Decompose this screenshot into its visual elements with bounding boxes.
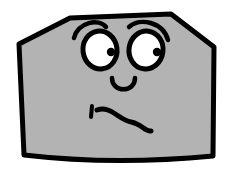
cartoon-rock-character bbox=[0, 0, 238, 172]
illustration-canvas bbox=[0, 0, 238, 172]
eye-left-pupil-icon bbox=[107, 48, 115, 56]
eye-left bbox=[81, 29, 120, 71]
eye-right bbox=[127, 29, 166, 71]
mouth-tick-icon bbox=[91, 106, 92, 117]
eye-right-pupil-icon bbox=[153, 48, 161, 56]
